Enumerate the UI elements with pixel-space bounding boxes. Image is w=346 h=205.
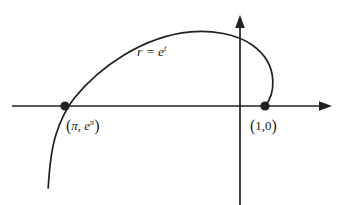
figure-drawing-canvas <box>0 0 346 205</box>
point-label-one-zero: (1,0) <box>250 118 277 134</box>
point-marker-pi-e-pi <box>60 101 69 110</box>
point-marker-one-zero <box>260 101 269 110</box>
curve-equation-label: r = et <box>137 45 166 59</box>
coordinate-values: 1,0 <box>255 118 271 133</box>
polar-curve-figure: r = et (π, eπ) (1,0) <box>0 0 346 205</box>
y-axis-arrowhead-icon <box>235 15 245 28</box>
x-axis-arrowhead-icon <box>319 101 332 111</box>
right-paren: ) <box>94 117 99 134</box>
curve-equation-base: r = e <box>137 44 164 59</box>
point-label-pi-e-pi: (π, eπ) <box>66 118 99 134</box>
curve-equation-exponent: t <box>164 44 166 53</box>
right-paren: ) <box>272 117 277 134</box>
